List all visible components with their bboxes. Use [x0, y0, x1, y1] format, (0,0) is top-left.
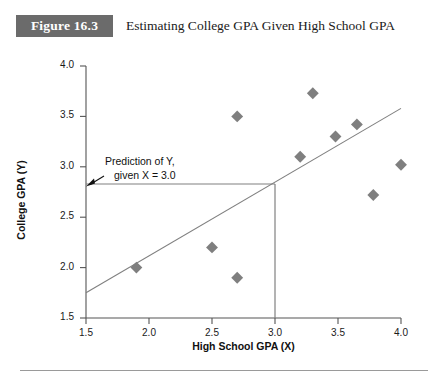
- y-tick-label-2-0: 2.0: [40, 261, 74, 272]
- annotation-line-2: given X = 3.0: [105, 169, 176, 183]
- y-tick-label-4-0: 4.0: [40, 59, 74, 70]
- y-axis-title: College GPA (Y): [15, 135, 27, 265]
- data-point: [231, 272, 243, 284]
- y-axis-ticks: [80, 66, 86, 318]
- y-tick-label-3-5: 3.5: [40, 109, 74, 120]
- prediction-guide-lines: [86, 184, 275, 318]
- data-point: [307, 87, 319, 99]
- x-tick-label-3-5: 3.5: [318, 327, 358, 338]
- data-point: [330, 131, 342, 143]
- y-tick-label-1-5: 1.5: [40, 311, 74, 322]
- x-tick-label-2-0: 2.0: [129, 327, 169, 338]
- axes: [86, 66, 401, 318]
- annotation-line-1: Prediction of Y,: [105, 155, 176, 169]
- x-tick-label-4-0: 4.0: [381, 327, 421, 338]
- data-point: [367, 189, 379, 201]
- scatter-chart: 4.0 3.5 3.0 2.5 2.0 1.5 1.5 2.0 2.5 3.0 …: [0, 44, 448, 364]
- y-tick-label-2-5: 2.5: [40, 210, 74, 221]
- data-point: [231, 110, 243, 122]
- x-tick-label-3-0: 3.0: [255, 327, 295, 338]
- prediction-annotation: Prediction of Y, given X = 3.0: [105, 155, 176, 182]
- figure-number-badge: Figure 16.3: [16, 15, 113, 37]
- bottom-divider: [20, 370, 428, 371]
- data-point: [395, 159, 407, 171]
- x-axis-title: High School GPA (X): [86, 340, 401, 352]
- x-axis-ticks: [86, 318, 401, 324]
- data-point: [130, 262, 142, 274]
- figure-header: Figure 16.3 Estimating College GPA Given…: [16, 15, 432, 37]
- data-point: [206, 241, 218, 253]
- annotation-arrow-icon: [86, 176, 104, 187]
- figure-title: Estimating College GPA Given High School…: [126, 15, 395, 37]
- x-tick-label-2-5: 2.5: [192, 327, 232, 338]
- data-point: [294, 151, 306, 163]
- y-tick-label-3-0: 3.0: [40, 160, 74, 171]
- x-tick-label-1-5: 1.5: [66, 327, 106, 338]
- data-point: [351, 118, 363, 130]
